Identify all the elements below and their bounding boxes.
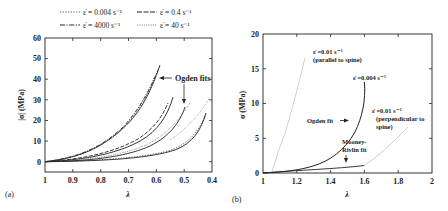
series-40: [45, 97, 173, 162]
y-tick-label: 10: [33, 137, 41, 146]
x-tick-label: 1.8: [393, 177, 403, 186]
y-tick-label: 15: [251, 65, 259, 74]
series-0004-ogden: [263, 82, 365, 173]
x-tick-label: 1: [261, 177, 265, 186]
series-perpendicular-spine: [364, 127, 408, 166]
x-tick-label: 1.6: [359, 177, 369, 186]
legend-item-4000: ε̇ = 4000 s⁻¹: [83, 21, 120, 30]
annotation-parallel-desc: (parallel to spine): [313, 56, 362, 64]
x-tick-labels-a: 1 0.9 0.8 0.7 0.6 0.5 0.4: [43, 176, 217, 185]
plot-frame-a: [45, 38, 212, 172]
y-tick-label: 10: [251, 99, 259, 108]
series-parallel-spine: [272, 58, 306, 173]
panel-b: 0 5 10 15 20 1 1.2 1.4 1.6 1.8 2 λ σ (MP…: [232, 30, 434, 204]
annotation-ogden-fit: Ogden fit: [307, 117, 334, 124]
y-tick-label: 30: [33, 96, 41, 105]
panel-label-b: (b): [232, 195, 242, 204]
x-tick-label: 1.2: [292, 177, 302, 186]
y-tick-label: 5: [255, 134, 259, 143]
legend-item-40: ε̇ = 40 s⁻¹: [160, 21, 190, 30]
y-tick-labels-a: 0 10 20 30 40 50 60: [33, 34, 41, 167]
y-tick-label: 40: [33, 75, 41, 84]
y-tick-label: 0: [255, 169, 259, 178]
x-tick-label: 1: [43, 176, 47, 185]
series-4000: [45, 65, 160, 162]
y-axis-label-b: σ (MPa): [238, 91, 247, 119]
x-tick-label: 0.5: [179, 176, 189, 185]
series-mooney-rivlin: [263, 166, 364, 174]
legend: ε̇ = 0.004 s⁻¹ ε̇ = 0.4 s⁻¹ ε̇ = 4000 s⁻…: [60, 8, 192, 30]
figure: ε̇ = 0.004 s⁻¹ ε̇ = 0.4 s⁻¹ ε̇ = 4000 s⁻…: [0, 0, 448, 211]
annotation-parallel-rate: ε̇ =0.01 s⁻¹: [313, 48, 343, 55]
panel-label-a: (a): [5, 190, 14, 199]
x-tick-label: 0.7: [124, 176, 134, 185]
x-tick-label: 1.4: [326, 177, 336, 186]
x-tick-label: 0.4: [207, 176, 217, 185]
y-axis-label-a: |σ| (MPa): [17, 89, 26, 121]
y-tick-labels-b: 0 5 10 15 20: [251, 30, 259, 178]
annotation-perp-desc2: spine): [376, 123, 393, 131]
y-tick-label: 0: [37, 158, 41, 167]
x-tick-label: 0.6: [151, 176, 161, 185]
series-0004: [45, 97, 210, 162]
annotation-0004-rate: ε̇ =0.004 s⁻¹: [353, 74, 386, 81]
x-tick-label: 2: [430, 177, 434, 186]
x-tick-labels-b: 1 1.2 1.4 1.6 1.8 2: [261, 177, 434, 186]
y-tick-label: 50: [33, 54, 41, 63]
annotation-perp-rate: ε̇ =0.01 s⁻¹: [372, 107, 402, 114]
y-tick-label: 60: [33, 34, 41, 43]
legend-item-0004: ε̇ = 0.004 s⁻¹: [83, 8, 122, 17]
x-axis-label-b: λ: [344, 190, 349, 199]
x-axis-label-a: λ: [125, 190, 130, 199]
y-tick-label: 20: [251, 30, 259, 39]
legend-item-04: ε̇ = 0.4 s⁻¹: [160, 8, 192, 17]
y-tick-label: 20: [33, 116, 41, 125]
annotation-ogden-fits: Ogden fits: [175, 74, 210, 83]
x-tick-label: 0.9: [68, 176, 78, 185]
annotation-rivlin-fit: Rivlin fit: [342, 146, 368, 153]
x-tick-label: 0.8: [96, 176, 106, 185]
panel-a: 0 10 20 30 40 50 60 1 0.9 0.8 0.7 0.6 0.…: [5, 34, 217, 199]
annotation-perp-desc1: (perpendicular to: [376, 115, 424, 123]
annotation-mooney: Mooney-: [342, 138, 367, 145]
